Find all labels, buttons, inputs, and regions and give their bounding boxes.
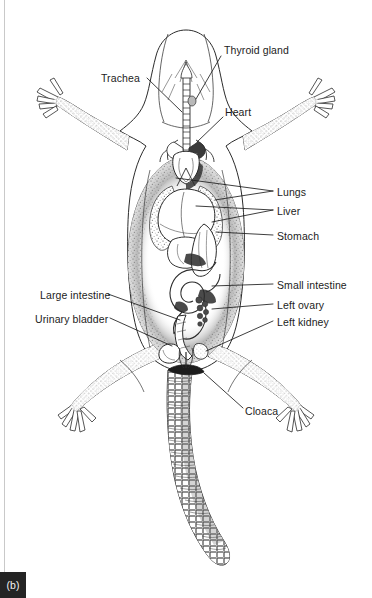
label-thyroid-gland: Thyroid gland <box>224 44 289 56</box>
leader-cloaca <box>204 373 243 408</box>
forelimb-left <box>37 78 140 160</box>
label-heart: Heart <box>225 106 251 118</box>
hindlimb-left <box>58 338 174 432</box>
forelimb-right <box>232 78 335 160</box>
label-left-ovary: Left ovary <box>277 299 324 311</box>
urinary-bladder <box>159 344 180 363</box>
label-trachea: Trachea <box>101 72 140 84</box>
label-stomach: Stomach <box>277 230 319 242</box>
tail <box>160 365 240 575</box>
label-small-intestine: Small intestine <box>277 279 347 291</box>
label-large-intestine: Large intestine <box>40 289 110 301</box>
thyroid-gland <box>188 96 196 106</box>
label-lungs: Lungs <box>277 186 306 198</box>
hindlimb-right <box>198 338 314 432</box>
label-liver: Liver <box>277 205 300 217</box>
label-cloaca: Cloaca <box>245 405 278 417</box>
panel-tag: (b) <box>0 572 26 598</box>
label-urinary-bladder: Urinary bladder <box>35 313 108 325</box>
label-left-kidney: Left kidney <box>277 316 329 328</box>
anatomical-figure: Thyroid gland Trachea Heart Lungs Liver … <box>0 0 372 598</box>
